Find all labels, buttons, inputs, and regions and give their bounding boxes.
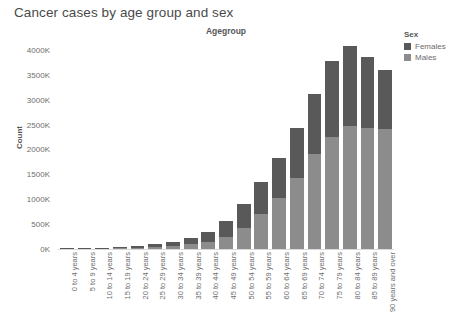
y-axis-tick-label: 4000K <box>27 45 50 54</box>
x-axis-tick-label: 30 to 34 years <box>176 252 185 300</box>
y-axis-ticks: 0K500K1000K1500K2000K2500K3000K3500K4000… <box>0 0 54 326</box>
bar-segment-females[interactable] <box>113 247 127 248</box>
bar-column[interactable] <box>184 40 198 249</box>
bar-segment-females[interactable] <box>290 128 304 178</box>
y-axis-tick-label: 500K <box>31 220 50 229</box>
x-axis-tick-label: 60 to 64 years <box>282 252 291 300</box>
bar-column[interactable] <box>131 40 145 249</box>
x-axis-ticks: 0 to 4 years5 to 9 years10 to 14 years15… <box>58 252 394 326</box>
bar-column[interactable] <box>201 40 215 249</box>
x-axis-tick-label: 50 to 54 years <box>247 252 256 300</box>
bar-column[interactable] <box>308 40 322 249</box>
bar-segment-females[interactable] <box>308 94 322 154</box>
y-axis-tick-label: 2000K <box>27 145 50 154</box>
bar-segment-males[interactable] <box>272 198 286 249</box>
y-axis-tick-label: 1000K <box>27 195 50 204</box>
bar-column[interactable] <box>113 40 127 249</box>
x-axis-tick-label: 85 to 89 years <box>370 252 379 300</box>
x-axis-tick-label: 20 to 24 years <box>141 252 150 300</box>
x-axis-tick-label: 45 to 49 years <box>229 252 238 300</box>
bar-column[interactable] <box>60 40 74 249</box>
bar-segment-females[interactable] <box>325 61 339 137</box>
bar-segment-males[interactable] <box>343 126 357 249</box>
bar-segment-females[interactable] <box>184 238 198 245</box>
legend-item[interactable]: Females <box>404 42 466 51</box>
bar-column[interactable] <box>325 40 339 249</box>
legend-items: FemalesMales <box>404 42 466 62</box>
bar-segment-females[interactable] <box>166 242 180 246</box>
bar-segment-females[interactable] <box>219 221 233 237</box>
bar-column[interactable] <box>361 40 375 249</box>
bar-segment-females[interactable] <box>131 246 145 248</box>
bar-segment-females[interactable] <box>343 46 357 126</box>
x-axis-tick-label: 25 to 29 years <box>158 252 167 300</box>
bar-column[interactable] <box>272 40 286 249</box>
x-axis-tick-label: 90 years and over <box>388 252 397 312</box>
bar-segment-females[interactable] <box>378 70 392 129</box>
y-axis-tick-label: 1500K <box>27 170 50 179</box>
bar-segment-males[interactable] <box>325 137 339 249</box>
bar-column[interactable] <box>166 40 180 249</box>
bar-segment-males[interactable] <box>290 178 304 249</box>
bar-column[interactable] <box>78 40 92 249</box>
x-axis-tick-label: 15 to 19 years <box>123 252 132 300</box>
x-axis-title: Agegroup <box>58 26 394 36</box>
legend-title: Sex <box>404 30 466 39</box>
axis-baseline <box>58 249 394 250</box>
x-axis-tick-label: 5 to 9 years <box>88 252 97 291</box>
bar-column[interactable] <box>290 40 304 249</box>
legend-item[interactable]: Males <box>404 53 466 62</box>
bar-column[interactable] <box>378 40 392 249</box>
bar-column[interactable] <box>343 40 357 249</box>
x-axis-tick-label: 65 to 69 years <box>300 252 309 300</box>
x-axis-tick-label: 80 to 84 years <box>353 252 362 300</box>
y-axis-tick-label: 0K <box>40 245 50 254</box>
bar-segment-males[interactable] <box>308 154 322 249</box>
bar-segment-males[interactable] <box>237 228 251 249</box>
plot-area <box>58 40 394 249</box>
bar-column[interactable] <box>237 40 251 249</box>
legend-item-label: Males <box>415 53 436 62</box>
x-axis-tick-label: 70 to 74 years <box>317 252 326 300</box>
x-axis-tick-label: 75 to 79 years <box>335 252 344 300</box>
bar-segment-females[interactable] <box>254 182 268 214</box>
y-axis-tick-label: 2500K <box>27 120 50 129</box>
legend-item-label: Females <box>415 42 446 51</box>
bar-segment-males[interactable] <box>378 129 392 249</box>
bar-column[interactable] <box>254 40 268 249</box>
bar-segment-males[interactable] <box>201 242 215 249</box>
legend: Sex FemalesMales <box>404 30 466 64</box>
bar-segment-males[interactable] <box>254 214 268 249</box>
y-axis-tick-label: 3500K <box>27 70 50 79</box>
x-axis-tick-label: 55 to 59 years <box>264 252 273 300</box>
bar-segment-females[interactable] <box>148 244 162 247</box>
legend-swatch-icon <box>404 43 411 50</box>
bar-segment-males[interactable] <box>219 237 233 249</box>
x-axis-tick-label: 10 to 14 years <box>105 252 114 300</box>
y-axis-tick-label: 3000K <box>27 95 50 104</box>
bar-segment-females[interactable] <box>237 204 251 227</box>
bar-segment-males[interactable] <box>361 128 375 249</box>
x-axis-tick-label: 40 to 44 years <box>211 252 220 300</box>
x-axis-tick-label: 0 to 4 years <box>70 252 79 291</box>
bar-column[interactable] <box>219 40 233 249</box>
bar-segment-females[interactable] <box>201 232 215 242</box>
bar-segment-females[interactable] <box>361 57 375 128</box>
bar-segment-females[interactable] <box>272 158 286 198</box>
bar-column[interactable] <box>148 40 162 249</box>
bar-column[interactable] <box>95 40 109 249</box>
legend-swatch-icon <box>404 54 411 61</box>
chart-container: Cancer cases by age group and sex Agegro… <box>0 0 467 326</box>
x-axis-tick-label: 35 to 39 years <box>194 252 203 300</box>
